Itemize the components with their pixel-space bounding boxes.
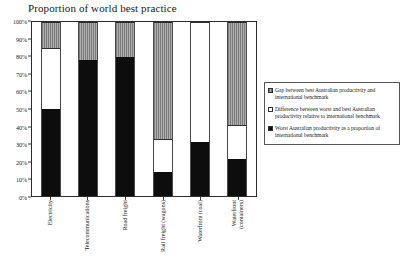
bar-slot — [181, 22, 218, 196]
bar-segment-worst — [79, 60, 97, 196]
chart-legend: Gap between best Australian productivity… — [264, 82, 400, 145]
plot-area — [31, 21, 257, 197]
x-axis-tick-label-line: Telecommunications — [83, 200, 90, 251]
bar-segment-gap — [42, 22, 60, 48]
x-axis-label-slot: Road freight — [106, 198, 144, 260]
x-axis-tick-label: Waterfront(containers) — [232, 200, 245, 229]
plot-inner — [32, 22, 256, 196]
stacked-bar[interactable] — [78, 22, 98, 196]
x-axis-tick-label: Waterfront (coal) — [197, 200, 204, 242]
stacked-bar[interactable] — [115, 22, 135, 196]
bar-slot — [32, 22, 69, 196]
stacked-bar[interactable] — [190, 22, 210, 196]
stacked-bar[interactable] — [41, 22, 61, 196]
y-axis-tick-label: 0% — [19, 194, 27, 201]
y-axis-tick-label: 40% — [16, 123, 27, 130]
bar-segment-difference — [191, 22, 209, 142]
y-axis-tick-label: 90% — [16, 35, 27, 42]
x-axis-tick-label-line: Road freight — [121, 200, 128, 231]
bar-slot — [107, 22, 144, 196]
legend-item-label: Worst Australian productivity as a propo… — [275, 125, 396, 139]
page-title: Proportion of world best practice — [28, 2, 177, 14]
x-axis-tick-label: Telecommunications — [84, 200, 91, 251]
y-axis-tick-label: 10% — [16, 176, 27, 183]
bar-segment-worst — [42, 109, 60, 196]
bar-segment-worst — [191, 142, 209, 196]
bar-segment-difference — [42, 48, 60, 109]
legend-item[interactable]: Worst Australian productivity as a propo… — [268, 125, 396, 139]
stacked-bar[interactable] — [227, 22, 247, 196]
bar-slot — [144, 22, 181, 196]
x-axis-label-slot: Waterfront (coal) — [182, 198, 220, 260]
x-axis-tick-label-line: (containers) — [238, 200, 245, 229]
y-axis-tick-label: 70% — [16, 70, 27, 77]
bar-slot — [219, 22, 256, 196]
x-axis-tick-label: Electricity — [47, 200, 54, 225]
y-axis-tick-label: 60% — [16, 88, 27, 95]
bar-segment-difference — [154, 139, 172, 171]
legend-item[interactable]: Gap between best Australian productivity… — [268, 87, 396, 101]
y-axis-tick-label: 80% — [16, 53, 27, 60]
bar-segment-worst — [228, 159, 246, 196]
legend-swatch-worst-icon — [268, 126, 273, 131]
legend-item-label: Gap between best Australian productivity… — [275, 87, 396, 101]
chart-page: Proportion of world best practice 100%90… — [0, 0, 403, 261]
y-axis-tick-label: 30% — [16, 141, 27, 148]
x-axis-label-slot: Telecommunications — [69, 198, 107, 260]
bar-segment-gap — [79, 22, 97, 60]
bar-segment-gap — [228, 22, 246, 125]
x-axis-tick-label: Road freight — [122, 200, 129, 231]
bar-segment-gap — [116, 22, 134, 57]
x-axis-tick-label-line: Rail freight (wagons) — [159, 200, 166, 252]
x-axis-label-slot: Rail freight (wagons) — [144, 198, 182, 260]
x-axis-tick-label: Rail freight (wagons) — [160, 200, 167, 252]
legend-swatch-diff-icon — [268, 107, 273, 112]
y-axis-tick-label: 100% — [13, 18, 27, 25]
bar-segment-difference — [228, 125, 246, 160]
stacked-bar[interactable] — [153, 22, 173, 196]
x-axis-label-slot: Electricity — [31, 198, 69, 260]
legend-item[interactable]: Difference between worst and best Austra… — [268, 106, 396, 120]
x-axis-tick-label-line: Waterfront (coal) — [196, 200, 203, 242]
legend-swatch-gap-icon — [268, 88, 273, 93]
bar-segment-gap — [154, 22, 172, 139]
y-axis: 100%90%80%70%60%50%40%30%20%10%0% — [0, 21, 31, 197]
bar-segment-worst — [154, 172, 172, 196]
x-axis: ElectricityTelecommunicationsRoad freigh… — [31, 198, 257, 260]
y-axis-tick-label: 50% — [16, 106, 27, 113]
bar-segment-worst — [116, 57, 134, 196]
x-axis-label-slot: Waterfront(containers) — [219, 198, 257, 260]
y-axis-tick-label: 20% — [16, 158, 27, 165]
bar-slot — [69, 22, 106, 196]
x-axis-tick-label-line: Electricity — [46, 200, 53, 225]
legend-item-label: Difference between worst and best Austra… — [275, 106, 396, 120]
